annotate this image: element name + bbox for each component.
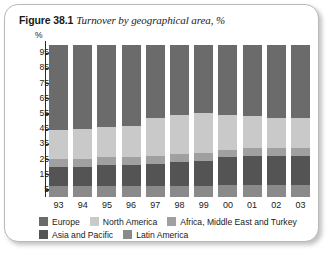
legend-color-swatch	[39, 217, 48, 226]
x-axis-label: 02	[264, 200, 288, 210]
bar-segment	[170, 162, 189, 186]
bar-segment	[194, 186, 213, 197]
bar-segment	[243, 156, 262, 185]
bar-segment	[73, 159, 92, 167]
bar-segment	[267, 118, 286, 148]
bar-segment	[146, 186, 165, 197]
bar-segment	[97, 127, 116, 157]
legend-color-swatch	[39, 230, 48, 239]
bar-segment	[49, 186, 68, 197]
bar-segment	[146, 156, 165, 164]
bar-segment	[73, 186, 92, 197]
legend-label: Latin America	[136, 230, 188, 240]
bar-segment	[194, 161, 213, 187]
legend-label: Africa, Middle East and Turkey	[180, 217, 297, 227]
bar-segment	[122, 157, 141, 165]
bar-segment	[243, 116, 262, 148]
x-axis-label: 93	[47, 200, 71, 210]
x-axis-label: 03	[289, 200, 313, 210]
y-axis-tick-mark	[45, 98, 49, 99]
bar-segment	[291, 185, 310, 197]
bar-segment	[218, 45, 237, 115]
y-axis-unit-label: %	[35, 30, 43, 40]
bar-segment	[122, 165, 141, 186]
bar-column	[146, 45, 165, 197]
bar-segment	[218, 157, 237, 184]
bar-segment	[243, 45, 262, 116]
bar-segment	[146, 118, 165, 156]
bar-segment	[49, 45, 68, 130]
legend-item: Latin America	[123, 230, 188, 240]
bar-column	[49, 45, 68, 197]
bar-segment	[194, 113, 213, 153]
legend-item: Europe	[39, 217, 80, 227]
y-axis-tick-mark	[45, 53, 49, 54]
y-axis-tick-mark	[45, 68, 49, 69]
y-axis-tick-mark	[45, 159, 49, 160]
bar-column	[218, 45, 237, 197]
bar-segment	[73, 129, 92, 159]
bar-segment	[243, 148, 262, 156]
bar-segment	[73, 45, 92, 129]
bar-segment	[194, 45, 213, 113]
figure-card: Figure 38.1 Turnover by geographical are…	[4, 4, 319, 242]
bar-column	[291, 45, 310, 197]
legend-item: Asia and Pacific	[39, 230, 113, 240]
y-axis-tick-mark	[45, 174, 49, 175]
x-axis-label: 98	[168, 200, 192, 210]
bar-segment	[49, 130, 68, 159]
bar-segment	[97, 157, 116, 165]
x-axis-label: 97	[143, 200, 167, 210]
bar-segment	[49, 159, 68, 167]
y-axis-tick-mark	[45, 113, 49, 114]
y-axis-tick-mark	[45, 83, 49, 84]
bar-column	[73, 45, 92, 197]
legend-item: North America	[90, 217, 157, 227]
bar-segment	[291, 118, 310, 148]
bar-segment	[291, 148, 310, 156]
bar-segment	[267, 185, 286, 197]
bar-segment	[243, 185, 262, 197]
y-axis-tick-mark	[45, 129, 49, 130]
bar-segment	[267, 156, 286, 185]
plot-bars-area	[49, 45, 315, 197]
stacked-bar-chart: % 5152535455565758595 939495969798990001…	[5, 5, 320, 243]
bar-segment	[170, 154, 189, 162]
bar-column	[267, 45, 286, 197]
bar-column	[97, 45, 116, 197]
legend-color-swatch	[90, 217, 99, 226]
x-axis-label: 96	[119, 200, 143, 210]
bar-segment	[97, 165, 116, 186]
x-axis-label: 95	[95, 200, 119, 210]
bar-segment	[49, 167, 68, 187]
legend-row: Asia and PacificLatin America	[39, 228, 314, 241]
bar-column	[243, 45, 262, 197]
bar-segment	[170, 115, 189, 155]
x-axis-label: 00	[216, 200, 240, 210]
bar-segment	[170, 186, 189, 197]
chart-legend: EuropeNorth AmericaAfrica, Middle East a…	[39, 215, 314, 241]
y-axis-tick-mark	[45, 144, 49, 145]
bar-segment	[170, 45, 189, 115]
legend-color-swatch	[123, 230, 132, 239]
bar-column	[194, 45, 213, 197]
legend-label: Asia and Pacific	[52, 230, 113, 240]
bar-segment	[218, 185, 237, 197]
bar-segment	[194, 153, 213, 161]
bar-segment	[267, 148, 286, 156]
legend-color-swatch	[167, 217, 176, 226]
bar-segment	[97, 45, 116, 127]
bar-segment	[122, 186, 141, 197]
bar-segment	[218, 115, 237, 150]
x-axis-label: 94	[71, 200, 95, 210]
bar-segment	[267, 45, 286, 118]
bar-segment	[146, 164, 165, 187]
legend-row: EuropeNorth AmericaAfrica, Middle East a…	[39, 215, 314, 228]
bar-segment	[218, 150, 237, 158]
legend-label: North America	[103, 217, 157, 227]
x-axis-label: 01	[240, 200, 264, 210]
legend-item: Africa, Middle East and Turkey	[167, 217, 297, 227]
bar-segment	[73, 167, 92, 187]
bar-segment	[291, 45, 310, 118]
bar-segment	[122, 45, 141, 126]
